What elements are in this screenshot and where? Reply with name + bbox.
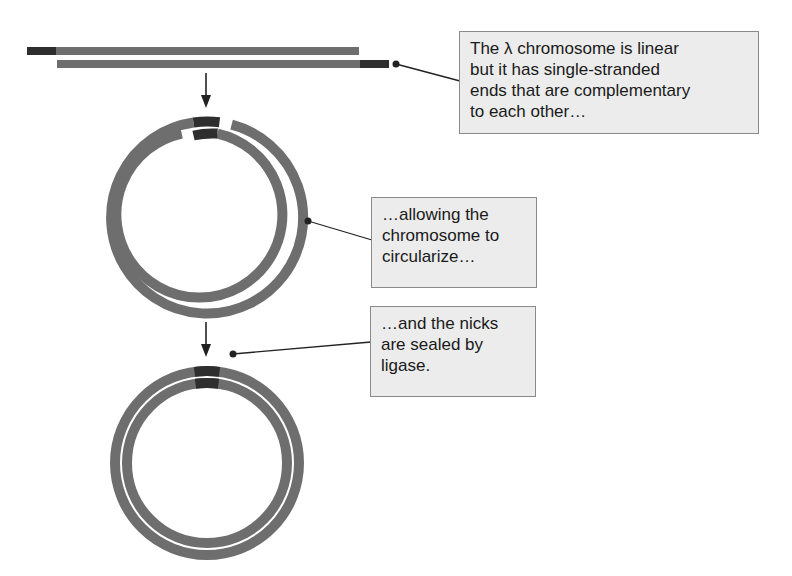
nicked-circular-chromosome bbox=[111, 121, 303, 313]
callout-text-line: The λ chromosome is linear bbox=[470, 38, 748, 59]
inner-ligated-region bbox=[196, 383, 219, 384]
leader-line-1 bbox=[393, 61, 461, 82]
callout-text-line: to each other… bbox=[470, 101, 748, 122]
arrow-down-icon bbox=[201, 322, 211, 357]
outer-ligated-region bbox=[195, 371, 220, 372]
callout-linear-chromosome: The λ chromosome is linear but it has si… bbox=[459, 31, 759, 134]
callout-text-line: ligase. bbox=[381, 355, 525, 376]
callout-text-line: …and the nicks bbox=[381, 313, 525, 334]
leader-line-2 bbox=[305, 218, 373, 241]
top-strand-cohesive-end bbox=[27, 47, 56, 55]
callout-text-line: chromosome to bbox=[382, 225, 526, 246]
callout-ligase: …and the nicks are sealed by ligase. bbox=[370, 306, 536, 397]
inner-strand bbox=[127, 383, 287, 543]
callout-text-line: ends that are complementary bbox=[470, 80, 748, 101]
callout-text-line: are sealed by bbox=[381, 334, 525, 355]
bottom-strand-cohesive-end bbox=[360, 60, 389, 68]
inner-strand bbox=[116, 134, 282, 298]
callout-circularize: …allowing the chromosome to circularize… bbox=[371, 197, 537, 288]
bottom-strand bbox=[57, 60, 360, 68]
sealed-circular-chromosome bbox=[115, 371, 299, 555]
arrow-down-icon bbox=[201, 73, 211, 108]
callout-text-line: …allowing the bbox=[382, 204, 526, 225]
callout-text-line: circularize… bbox=[382, 246, 526, 267]
top-strand bbox=[56, 47, 359, 55]
inner-cohesive-end bbox=[194, 133, 218, 135]
outer-strand bbox=[115, 371, 299, 555]
leader-line-3 bbox=[230, 342, 372, 358]
linear-chromosome bbox=[27, 47, 389, 68]
outer-cohesive-end bbox=[194, 121, 220, 122]
callout-text-line: but it has single-stranded bbox=[470, 59, 748, 80]
